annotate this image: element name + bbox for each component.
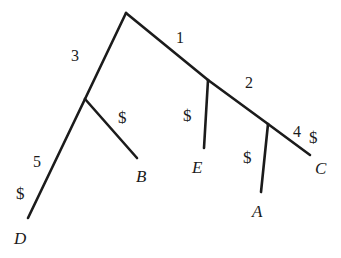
taxon-label-A: A [252,203,262,220]
tree-diagram-figure: 31254 $$$$$ DBEAC [0,0,341,258]
branch-number-1: 1 [176,30,184,46]
tree-edge-layer [28,13,310,218]
mutation-marker-B: $ [118,109,127,126]
edge-root-to-left [85,13,126,99]
taxon-label-D: D [14,230,26,247]
edge-inner-to-A [261,124,268,192]
mutation-marker-C: $ [309,129,318,146]
edge-right-to-E [204,80,208,148]
edge-inner-to-C [268,124,310,155]
tree-canvas [0,0,341,258]
taxon-label-B: B [136,168,146,185]
mutation-marker-E: $ [183,107,192,124]
mutation-marker-D: $ [16,185,25,202]
taxon-label-C: C [315,160,326,177]
edge-root-to-right [126,13,208,80]
branch-number-3: 3 [71,48,79,64]
branch-number-2: 2 [245,75,253,91]
edge-right-to-inner [208,80,268,124]
taxon-label-E: E [192,159,202,176]
edge-left-to-B [85,99,137,158]
mutation-marker-A: $ [243,149,252,166]
branch-number-5: 5 [33,154,41,170]
branch-number-4: 4 [293,124,301,140]
